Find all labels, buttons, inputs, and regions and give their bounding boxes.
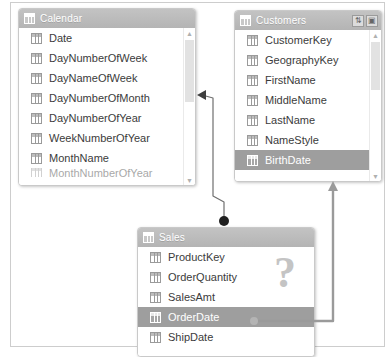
field-row-namestyle[interactable]: NameStyle xyxy=(235,130,381,150)
field-grid-icon xyxy=(31,53,42,64)
field-label: WeekNumberOfYear xyxy=(49,132,150,144)
field-grid-icon xyxy=(31,33,42,44)
field-list-calendar: Date DayNumberOfWeek DayNameOfWeek DayNu… xyxy=(19,28,195,186)
calendar-scrollbar[interactable]: ▲ ▼ xyxy=(183,28,195,186)
table-grid-icon xyxy=(143,232,154,243)
field-row-firstname[interactable]: FirstName xyxy=(235,70,381,90)
scroll-down-icon[interactable]: ▼ xyxy=(370,171,381,182)
scroll-up-icon[interactable]: ▲ xyxy=(184,28,195,39)
field-label: OrderDate xyxy=(168,311,219,323)
field-label: ProductKey xyxy=(168,251,225,263)
field-row-daynumberofweek[interactable]: DayNumberOfWeek xyxy=(19,48,195,68)
question-mark-annotation: ? xyxy=(274,251,296,295)
field-label: DayNumberOfMonth xyxy=(49,92,150,104)
field-grid-icon xyxy=(150,312,161,323)
field-grid-icon xyxy=(31,73,42,84)
field-grid-icon xyxy=(150,332,161,343)
field-row-daynumberofmonth[interactable]: DayNumberOfMonth xyxy=(19,88,195,108)
sort-fields-button[interactable]: ⇅ xyxy=(352,15,364,27)
table-grid-icon xyxy=(240,15,251,26)
field-row-middlename[interactable]: MiddleName xyxy=(235,90,381,110)
field-row-daynameofweek[interactable]: DayNameOfWeek xyxy=(19,68,195,88)
table-title-customers: Customers xyxy=(256,15,352,26)
field-row-geographykey[interactable]: GeographyKey xyxy=(235,50,381,70)
field-grid-icon xyxy=(247,55,258,66)
field-grid-icon xyxy=(247,75,258,86)
field-grid-icon xyxy=(247,155,258,166)
field-label: Date xyxy=(49,32,72,44)
customers-scrollbar[interactable]: ▲ ▼ xyxy=(369,30,381,182)
table-card-customers[interactable]: Customers ⇅ ▣ CustomerKey GeographyKey F… xyxy=(234,10,382,182)
field-row-monthnumberofyear[interactable]: MonthNumberOfYear xyxy=(19,168,195,177)
field-grid-icon xyxy=(31,113,42,124)
table-grid-icon xyxy=(24,13,35,24)
table-title-sales: Sales xyxy=(159,232,311,243)
diagram-canvas: Calendar Date DayNumberOfWeek DayNameOfW… xyxy=(0,0,391,357)
table-header-customers[interactable]: Customers ⇅ ▣ xyxy=(235,11,381,30)
customers-header-buttons: ⇅ ▣ xyxy=(352,15,378,27)
maximize-button[interactable]: ▣ xyxy=(366,15,378,27)
field-row-daynumberofyear[interactable]: DayNumberOfYear xyxy=(19,108,195,128)
field-label: DayNumberOfYear xyxy=(49,112,142,124)
field-grid-icon xyxy=(247,95,258,106)
scroll-down-icon[interactable]: ▼ xyxy=(184,175,195,186)
field-grid-icon xyxy=(31,133,42,144)
field-row-birthdate[interactable]: BirthDate xyxy=(235,150,381,170)
table-card-sales[interactable]: Sales ProductKey OrderQuantity SalesAmt … xyxy=(137,227,315,357)
field-grid-icon xyxy=(247,135,258,146)
field-label: MonthName xyxy=(49,152,109,164)
field-label: ShipDate xyxy=(168,331,213,343)
field-row-customerkey[interactable]: CustomerKey xyxy=(235,30,381,50)
field-row-weeknumberofyear[interactable]: WeekNumberOfYear xyxy=(19,128,195,148)
field-label: DayNumberOfWeek xyxy=(49,52,147,64)
field-grid-icon xyxy=(247,115,258,126)
field-grid-icon xyxy=(31,93,42,104)
scroll-thumb[interactable] xyxy=(185,40,194,102)
field-list-customers: CustomerKey GeographyKey FirstName Middl… xyxy=(235,30,381,182)
field-grid-icon xyxy=(150,272,161,283)
field-label: SalesAmt xyxy=(168,291,215,303)
field-label: GeographyKey xyxy=(265,54,338,66)
field-grid-icon xyxy=(150,292,161,303)
field-grid-icon xyxy=(31,153,42,164)
field-label: BirthDate xyxy=(265,154,311,166)
field-row-date[interactable]: Date xyxy=(19,28,195,48)
field-label: FirstName xyxy=(265,74,316,86)
field-label: MonthNumberOfYear xyxy=(49,168,153,177)
field-label: CustomerKey xyxy=(265,34,332,46)
field-grid-icon xyxy=(31,168,42,177)
field-label: OrderQuantity xyxy=(168,271,237,283)
table-header-calendar[interactable]: Calendar xyxy=(19,9,195,28)
table-header-sales[interactable]: Sales xyxy=(138,228,314,247)
field-grid-icon xyxy=(247,35,258,46)
field-grid-icon xyxy=(150,252,161,263)
table-card-calendar[interactable]: Calendar Date DayNumberOfWeek DayNameOfW… xyxy=(18,8,196,186)
table-title-calendar: Calendar xyxy=(40,13,192,24)
field-row-orderdate[interactable]: OrderDate xyxy=(138,307,314,327)
field-row-lastname[interactable]: LastName xyxy=(235,110,381,130)
field-row-monthname[interactable]: MonthName xyxy=(19,148,195,168)
field-label: NameStyle xyxy=(265,134,319,146)
field-label: LastName xyxy=(265,114,315,126)
field-label: MiddleName xyxy=(265,94,327,106)
field-row-shipdate[interactable]: ShipDate xyxy=(138,327,314,347)
field-label: DayNameOfWeek xyxy=(49,72,137,84)
scroll-thumb[interactable] xyxy=(371,42,380,90)
scroll-up-icon[interactable]: ▲ xyxy=(370,30,381,41)
